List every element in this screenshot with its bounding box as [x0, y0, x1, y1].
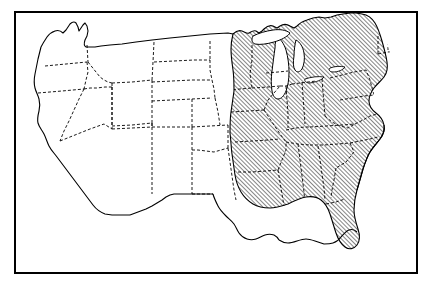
us-map-svg — [0, 0, 432, 286]
map-figure — [0, 0, 432, 286]
